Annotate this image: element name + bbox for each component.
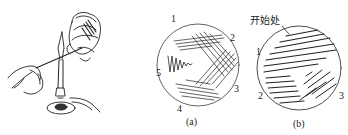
region-label-a-2: 2 [230, 33, 235, 43]
region-label-a-5: 5 [156, 68, 161, 78]
region-label-b-2: 2 [258, 91, 263, 101]
flame-sterilization-drawing [8, 12, 101, 114]
start-point-label: 开始处 [250, 16, 280, 26]
caption-a: (a) [186, 117, 197, 127]
region-label-b-1: 1 [256, 47, 261, 57]
region-label-a-3: 3 [234, 84, 239, 94]
streak-plate-b [257, 26, 341, 110]
streak-plate-a [157, 24, 239, 106]
caption-b: (b) [293, 119, 305, 129]
region-label-a-1: 1 [171, 14, 176, 24]
region-label-a-4: 4 [177, 104, 182, 114]
region-label-b-3: 3 [339, 91, 344, 101]
